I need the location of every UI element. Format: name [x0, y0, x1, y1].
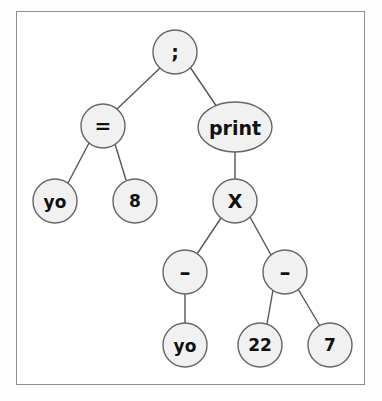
node-label: yo	[174, 336, 197, 356]
edge-semicolon-to-equals	[116, 68, 160, 110]
node-label: 22	[248, 335, 272, 355]
edge-minus-right-to-22	[267, 290, 273, 324]
tree-node-8[interactable]: 8	[113, 179, 157, 223]
tree-node-22[interactable]: 22	[238, 323, 282, 367]
node-label: ;	[171, 41, 179, 63]
tree-canvas: ; = print yo 8 X	[0, 0, 382, 401]
node-label: –	[180, 260, 191, 285]
node-group: ; = print yo 8 X	[33, 30, 352, 367]
node-label: yo	[44, 192, 67, 212]
tree-node-yo-assign[interactable]: yo	[33, 179, 77, 223]
edge-equals-to-8	[115, 144, 126, 180]
tree-node-times[interactable]: X	[213, 179, 257, 223]
node-label: 8	[129, 191, 141, 211]
node-label: X	[228, 190, 243, 212]
tree-node-minus-right[interactable]: –	[263, 250, 307, 294]
node-label: print	[209, 117, 261, 139]
tree-node-yo-operand[interactable]: yo	[163, 323, 207, 367]
edge-minus-right-to-7	[298, 289, 320, 326]
edge-times-to-minus-right	[250, 217, 271, 255]
ast-diagram: ; = print yo 8 X	[0, 0, 382, 401]
tree-node-minus-left[interactable]: –	[163, 250, 207, 294]
tree-node-equals[interactable]: =	[81, 104, 125, 148]
node-label: –	[280, 260, 291, 285]
tree-node-print[interactable]: print	[198, 102, 272, 152]
node-label: 7	[324, 335, 336, 355]
tree-node-7[interactable]: 7	[308, 323, 352, 367]
edge-times-to-minus-left	[197, 218, 221, 254]
edge-equals-to-yo	[68, 143, 89, 183]
node-label: =	[95, 114, 112, 138]
edge-semicolon-to-print	[190, 67, 219, 110]
tree-node-semicolon[interactable]: ;	[153, 30, 197, 74]
